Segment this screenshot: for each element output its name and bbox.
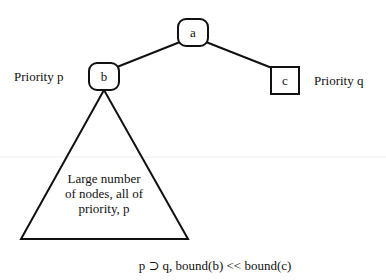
subtree-line-3: priority, p bbox=[49, 201, 159, 216]
priority-p-annotation: Priority p bbox=[14, 70, 63, 83]
edge-a-b bbox=[117, 42, 180, 67]
node-b-label: b bbox=[89, 70, 119, 83]
diagram-caption: p ⊃ q, bound(b) << bound(c) bbox=[85, 258, 345, 274]
edge-a-c bbox=[206, 42, 272, 68]
priority-q-annotation: Priority q bbox=[314, 74, 363, 87]
subtree-line-1: Large number bbox=[49, 171, 159, 186]
tree-diagram-canvas bbox=[0, 0, 386, 280]
subtree-triangle bbox=[21, 90, 188, 239]
node-a-label: a bbox=[178, 26, 208, 39]
node-c-label: c bbox=[271, 74, 299, 87]
subtree-line-2: of nodes, all of bbox=[49, 186, 159, 201]
subtree-description: Large number of nodes, all of priority, … bbox=[49, 171, 159, 216]
